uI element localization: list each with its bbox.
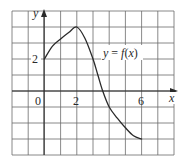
- grid-lines: [12, 11, 174, 155]
- curve-label-equals: =: [108, 46, 121, 60]
- origin-label: 0: [35, 94, 41, 108]
- y-axis-label: y: [32, 6, 39, 20]
- y-axis-arrow-icon: [41, 9, 47, 17]
- function-graph: y x 0 2 6 2 y = f(x): [0, 0, 184, 163]
- axes: [12, 9, 178, 155]
- x-axis-label: x: [168, 91, 175, 105]
- x-tick-label-2: 2: [73, 94, 79, 108]
- curve-label: y = f(x): [102, 46, 138, 60]
- y-tick-label-2: 2: [32, 52, 38, 66]
- x-tick-label-6: 6: [138, 94, 144, 108]
- curve-label-paren-close: ): [134, 46, 138, 60]
